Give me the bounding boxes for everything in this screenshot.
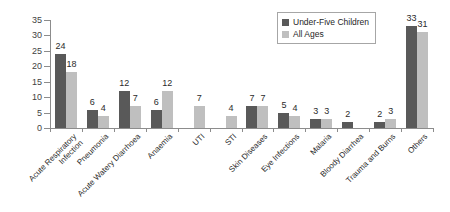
x-axis-category-label: Anaemia [145,132,174,161]
legend-label-all-ages: All Ages [293,30,324,39]
legend-label-under-five: Under-Five Children [293,18,369,27]
bar: 2 [374,122,385,128]
bar-group: 3331 [401,20,433,128]
legend-swatch-icon-under-five [282,19,289,26]
bar-group: 4 [210,20,242,128]
bar-value-label: 31 [418,20,428,29]
bar-value-label: 12 [162,79,172,88]
x-axis-category-label-line: Others [406,132,429,155]
bar-value-label: 3 [388,107,393,116]
bar-value-label: 3 [324,107,329,116]
bar-value-label: 2 [345,110,350,119]
bar: 4 [289,116,300,128]
bar-group: 7 [178,20,210,128]
bar: 3 [321,119,332,128]
bar-value-label: 33 [407,14,417,23]
x-axis-labels: Acute RespiratoryInfectionPneumoniaAcute… [50,132,433,212]
legend-item-under-five: Under-Five Children [282,16,369,28]
x-axis-category-label: STI [223,132,238,147]
bar: 18 [66,72,77,128]
bar: 7 [194,106,205,128]
bar-group: 612 [146,20,178,128]
bar-value-label: 18 [66,60,76,69]
y-axis-tick-label: 30 [18,31,42,40]
x-axis-category-label: Others [406,132,429,155]
bar-chart: 05101520253035 2418641276127477543322333… [0,0,450,212]
x-axis-category-label-line: Malaria [309,132,334,157]
x-axis-category-label-line: UTI [191,132,206,147]
x-axis-category-label: Malaria [309,132,334,157]
bar: 3 [385,119,396,128]
bar-value-label: 5 [281,101,286,110]
bar: 7 [130,106,141,128]
bar: 3 [310,119,321,128]
bar: 31 [417,32,428,128]
bar: 4 [226,116,237,128]
bar: 33 [406,26,417,128]
y-axis-tick-label: 35 [18,16,42,25]
x-axis-category-label: UTI [191,132,207,148]
bar: 4 [98,116,109,128]
x-axis-category-label-line: Acute Watery Diarrhoea [76,132,143,199]
x-axis-category-label: Acute Watery Diarrhoea [76,132,143,199]
bar: 24 [55,54,66,128]
bar-group: 127 [114,20,146,128]
bar-value-label: 4 [292,104,297,113]
bar-value-label: 6 [90,98,95,107]
bar-value-label: 7 [197,94,202,103]
bar-value-label: 4 [101,104,106,113]
legend-item-all-ages: All Ages [282,28,369,40]
y-axis-tick-label: 15 [18,78,42,87]
y-axis-tick-label: 5 [18,109,42,118]
bar: 2 [342,122,353,128]
bar: 5 [278,113,289,128]
bar-value-label: 7 [260,94,265,103]
bar: 7 [246,106,257,128]
bar: 6 [151,110,162,129]
x-axis-category-label-line: Anaemia [145,132,174,161]
y-axis-tick-label: 25 [18,47,42,56]
bar: 6 [87,110,98,129]
y-axis-tick-label: 0 [18,124,42,133]
bar: 12 [119,91,130,128]
bar-value-label: 7 [133,94,138,103]
x-axis-category-label-line: STI [223,132,238,147]
bar: 7 [257,106,268,128]
bar-value-label: 4 [229,104,234,113]
legend-swatch-icon-all-ages [282,31,289,38]
chart-legend: Under-Five Children All Ages [277,12,376,44]
bar-value-label: 3 [313,107,318,116]
bar: 12 [162,91,173,128]
bar-group: 2418 [50,20,82,128]
y-axis-tick-label: 20 [18,62,42,71]
bar-value-label: 12 [119,79,129,88]
y-axis-tick-label: 10 [18,93,42,102]
bar-value-label: 6 [154,98,159,107]
bar-group: 77 [242,20,274,128]
bar-group: 64 [82,20,114,128]
x-axis-tick [433,128,434,132]
bar-value-label: 7 [249,94,254,103]
bar-value-label: 2 [377,110,382,119]
bar-value-label: 24 [55,42,65,51]
